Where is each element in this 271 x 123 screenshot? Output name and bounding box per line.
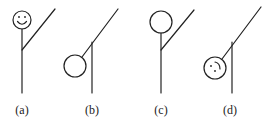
- face-dot-2: [214, 70, 216, 72]
- panel-a-label: (a): [15, 103, 28, 118]
- panel-b-label: (b): [85, 103, 99, 118]
- face-dot-1: [210, 65, 212, 67]
- panel-c-figure: [150, 10, 194, 93]
- panel-a-figure: [13, 9, 55, 93]
- arm-line: [22, 9, 55, 50]
- rotated-face-head-icon: [204, 57, 226, 79]
- blank-head-icon: [64, 55, 86, 77]
- left-eye: [18, 16, 20, 18]
- smiley-head-icon: [13, 11, 31, 29]
- right-eye: [24, 16, 26, 18]
- smile-arc: [18, 22, 27, 25]
- face-arc: [215, 62, 220, 69]
- arm-line: [222, 7, 261, 59]
- panel-d-label: (d): [223, 103, 237, 118]
- blank-head-icon: [150, 11, 172, 33]
- panel-b-figure: [64, 9, 118, 93]
- panel-d-figure: [204, 7, 261, 93]
- arm-line: [82, 9, 118, 57]
- panel-c-label: (c): [154, 103, 167, 118]
- arm-line: [161, 10, 194, 50]
